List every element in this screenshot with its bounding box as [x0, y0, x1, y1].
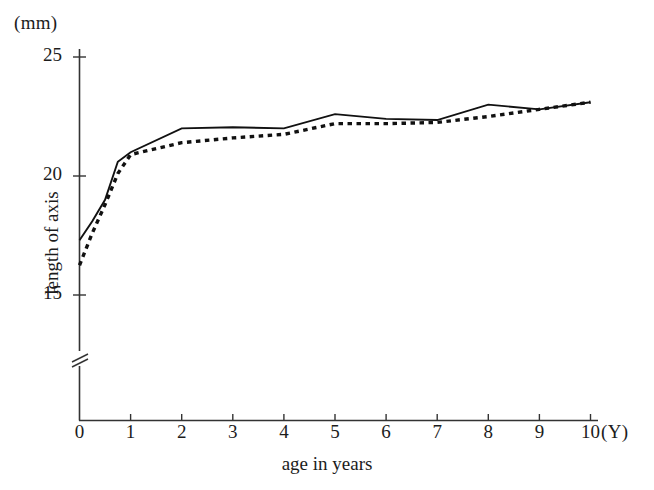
series-dotted-curve: [80, 102, 591, 265]
x-tick-label: 3: [213, 421, 253, 443]
data-series-layer: [80, 102, 591, 265]
y-axis-break-icon: [72, 351, 88, 367]
axis-lines: [79, 49, 598, 421]
x-tick-label: 5: [315, 421, 355, 443]
x-tick-label: 0: [60, 421, 100, 443]
x-tick-label: 7: [417, 421, 457, 443]
y-tick-label: 25: [22, 44, 62, 66]
x-tick-label: 2: [162, 421, 202, 443]
chart-figure: (mm) length of axis age in years (Y) 152…: [0, 0, 654, 490]
y-tick-label: 15: [22, 282, 62, 304]
plot-area: [0, 0, 654, 490]
x-tick-label: 10: [571, 421, 611, 443]
y-tick-label: 20: [22, 163, 62, 185]
x-tick-label: 9: [519, 421, 559, 443]
x-tick-label: 1: [111, 421, 151, 443]
x-tick-label: 4: [264, 421, 304, 443]
x-tick-label: 6: [366, 421, 406, 443]
x-tick-label: 8: [468, 421, 508, 443]
series-solid-curve: [80, 102, 591, 240]
